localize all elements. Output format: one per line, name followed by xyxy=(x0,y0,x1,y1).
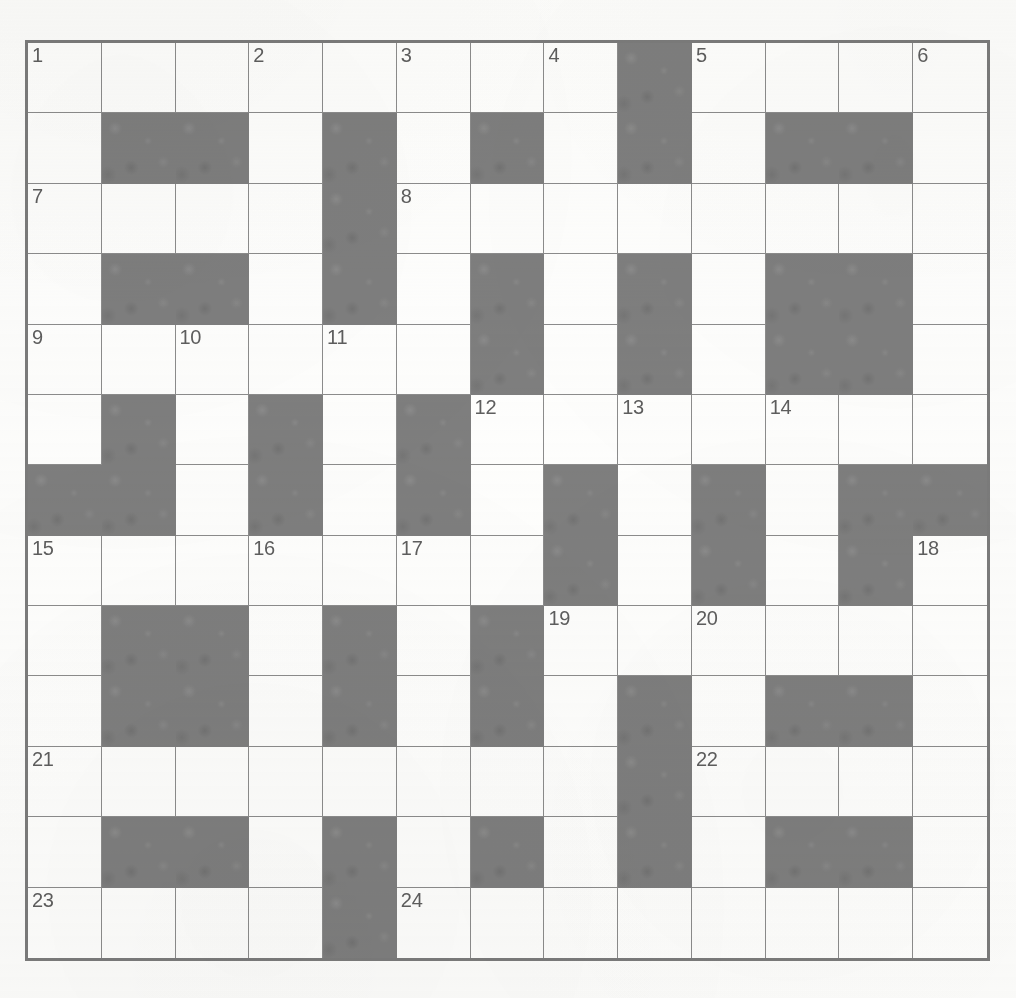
crossword-cell[interactable] xyxy=(176,888,250,958)
crossword-cell[interactable]: 7 xyxy=(28,184,102,254)
crossword-cell[interactable] xyxy=(249,254,323,324)
crossword-cell[interactable] xyxy=(102,536,176,606)
crossword-cell[interactable] xyxy=(839,888,913,958)
crossword-cell[interactable] xyxy=(397,747,471,817)
crossword-cell[interactable] xyxy=(913,395,987,465)
crossword-cell[interactable] xyxy=(249,184,323,254)
crossword-cell[interactable]: 13 xyxy=(618,395,692,465)
crossword-cell[interactable] xyxy=(102,325,176,395)
crossword-cell[interactable] xyxy=(249,606,323,676)
crossword-cell[interactable] xyxy=(913,606,987,676)
crossword-cell[interactable] xyxy=(249,113,323,183)
crossword-cell[interactable] xyxy=(913,254,987,324)
crossword-cell[interactable] xyxy=(102,184,176,254)
crossword-cell[interactable] xyxy=(692,395,766,465)
crossword-cell[interactable] xyxy=(544,676,618,746)
crossword-cell[interactable]: 11 xyxy=(323,325,397,395)
crossword-cell[interactable] xyxy=(913,676,987,746)
crossword-cell[interactable]: 10 xyxy=(176,325,250,395)
crossword-cell[interactable] xyxy=(471,536,545,606)
crossword-cell[interactable] xyxy=(397,817,471,887)
crossword-cell[interactable] xyxy=(323,747,397,817)
crossword-cell[interactable]: 4 xyxy=(544,43,618,113)
crossword-cell[interactable] xyxy=(471,184,545,254)
crossword-cell[interactable] xyxy=(28,676,102,746)
crossword-cell[interactable] xyxy=(618,536,692,606)
crossword-cell[interactable] xyxy=(28,817,102,887)
crossword-cell[interactable] xyxy=(692,113,766,183)
crossword-cell[interactable] xyxy=(913,888,987,958)
crossword-cell[interactable]: 3 xyxy=(397,43,471,113)
crossword-cell[interactable] xyxy=(766,43,840,113)
crossword-cell[interactable] xyxy=(618,465,692,535)
crossword-cell[interactable] xyxy=(397,254,471,324)
crossword-cell[interactable]: 23 xyxy=(28,888,102,958)
crossword-cell[interactable] xyxy=(471,465,545,535)
crossword-cell[interactable] xyxy=(176,395,250,465)
crossword-cell[interactable] xyxy=(766,536,840,606)
crossword-cell[interactable] xyxy=(692,817,766,887)
crossword-cell[interactable]: 16 xyxy=(249,536,323,606)
crossword-cell[interactable] xyxy=(839,747,913,817)
crossword-cell[interactable] xyxy=(692,888,766,958)
crossword-cell[interactable] xyxy=(176,43,250,113)
crossword-cell[interactable] xyxy=(249,817,323,887)
crossword-cell[interactable] xyxy=(766,747,840,817)
crossword-cell[interactable]: 22 xyxy=(692,747,766,817)
crossword-cell[interactable] xyxy=(839,184,913,254)
crossword-cell[interactable] xyxy=(692,676,766,746)
crossword-cell[interactable] xyxy=(323,43,397,113)
crossword-cell[interactable] xyxy=(618,184,692,254)
crossword-cell[interactable]: 17 xyxy=(397,536,471,606)
crossword-cell[interactable]: 14 xyxy=(766,395,840,465)
crossword-cell[interactable] xyxy=(544,747,618,817)
crossword-cell[interactable]: 21 xyxy=(28,747,102,817)
crossword-cell[interactable] xyxy=(766,888,840,958)
crossword-cell[interactable] xyxy=(544,184,618,254)
crossword-cell[interactable] xyxy=(544,254,618,324)
crossword-cell[interactable] xyxy=(249,888,323,958)
crossword-cell[interactable]: 18 xyxy=(913,536,987,606)
crossword-cell[interactable] xyxy=(766,465,840,535)
crossword-cell[interactable]: 24 xyxy=(397,888,471,958)
crossword-cell[interactable] xyxy=(544,113,618,183)
crossword-cell[interactable] xyxy=(471,747,545,817)
crossword-cell[interactable] xyxy=(544,817,618,887)
crossword-cell[interactable] xyxy=(28,113,102,183)
crossword-cell[interactable] xyxy=(913,747,987,817)
crossword-cell[interactable] xyxy=(618,888,692,958)
crossword-cell[interactable] xyxy=(839,606,913,676)
crossword-cell[interactable] xyxy=(28,395,102,465)
crossword-cell[interactable] xyxy=(397,113,471,183)
crossword-cell[interactable] xyxy=(839,43,913,113)
crossword-cell[interactable] xyxy=(323,465,397,535)
crossword-cell[interactable] xyxy=(397,606,471,676)
crossword-cell[interactable] xyxy=(102,888,176,958)
crossword-cell[interactable] xyxy=(471,888,545,958)
crossword-cell[interactable]: 2 xyxy=(249,43,323,113)
crossword-cell[interactable]: 9 xyxy=(28,325,102,395)
crossword-cell[interactable] xyxy=(692,325,766,395)
crossword-cell[interactable] xyxy=(618,606,692,676)
crossword-cell[interactable] xyxy=(249,325,323,395)
crossword-cell[interactable] xyxy=(692,184,766,254)
crossword-cell[interactable]: 12 xyxy=(471,395,545,465)
crossword-cell[interactable]: 15 xyxy=(28,536,102,606)
crossword-cell[interactable]: 19 xyxy=(544,606,618,676)
crossword-cell[interactable] xyxy=(176,465,250,535)
crossword-cell[interactable] xyxy=(913,113,987,183)
crossword-cell[interactable] xyxy=(471,43,545,113)
crossword-cell[interactable]: 20 xyxy=(692,606,766,676)
crossword-cell[interactable]: 6 xyxy=(913,43,987,113)
crossword-cell[interactable] xyxy=(692,254,766,324)
crossword-cell[interactable] xyxy=(913,184,987,254)
crossword-cell[interactable] xyxy=(839,395,913,465)
crossword-cell[interactable] xyxy=(249,747,323,817)
crossword-cell[interactable] xyxy=(102,747,176,817)
crossword-cell[interactable] xyxy=(102,43,176,113)
crossword-cell[interactable] xyxy=(766,184,840,254)
crossword-cell[interactable] xyxy=(28,606,102,676)
crossword-cell[interactable] xyxy=(913,325,987,395)
crossword-cell[interactable] xyxy=(544,395,618,465)
crossword-cell[interactable]: 5 xyxy=(692,43,766,113)
